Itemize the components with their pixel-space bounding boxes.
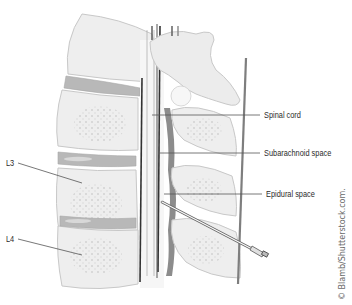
vertebra-l5 xyxy=(58,226,139,289)
label-spinal-cord: Spinal cord xyxy=(264,110,301,120)
spine-diagram: Spinal cord Subarachnoid space Epidural … xyxy=(0,0,352,305)
image-credit: © Blamb/Shutterstock.com. xyxy=(338,188,347,300)
vertebra-l3 xyxy=(57,90,138,151)
spinous-processes xyxy=(171,107,240,278)
ligamentum-flavum xyxy=(164,108,176,276)
label-epidural-space: Epidural space xyxy=(266,189,315,199)
skin-line xyxy=(238,58,246,284)
label-subarachnoid-space: Subarachnoid space xyxy=(264,148,331,158)
label-l4: L4 xyxy=(6,234,14,244)
label-l3: L3 xyxy=(6,158,14,168)
